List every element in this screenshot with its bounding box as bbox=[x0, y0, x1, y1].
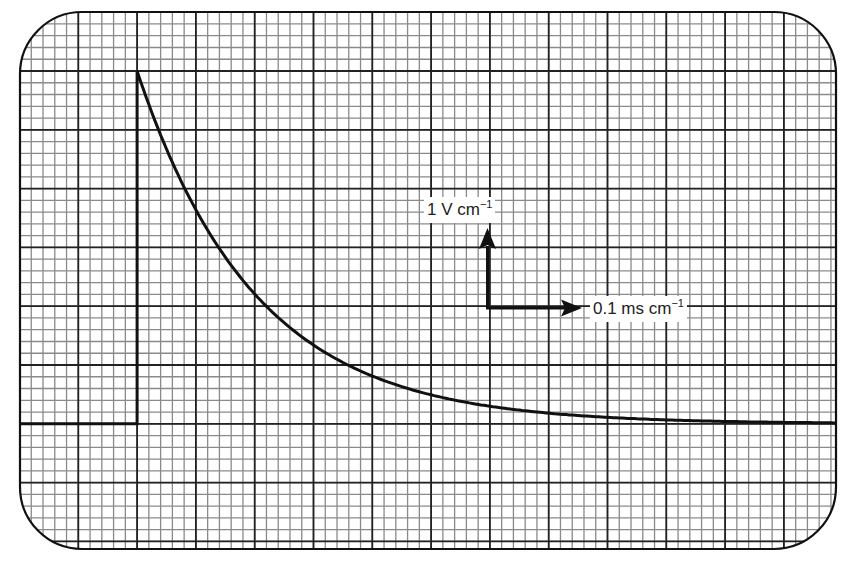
vertical-scale-text: 1 V cm bbox=[427, 200, 480, 219]
oscilloscope-graticule bbox=[0, 0, 851, 567]
vertical-scale-label: 1 V cm−1 bbox=[424, 197, 495, 223]
vertical-scale-exponent: −1 bbox=[480, 198, 493, 210]
grid bbox=[0, 0, 851, 567]
horizontal-scale-exponent: −1 bbox=[671, 297, 684, 309]
horizontal-scale-text: 0.1 ms cm bbox=[593, 299, 671, 318]
horizontal-scale-label: 0.1 ms cm−1 bbox=[590, 296, 687, 322]
